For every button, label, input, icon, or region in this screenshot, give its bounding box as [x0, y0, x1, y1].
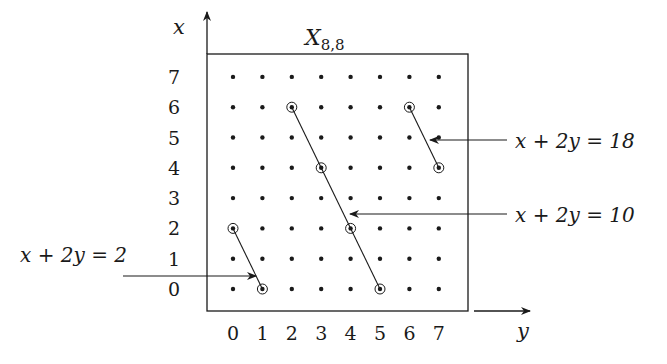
solution-point [287, 102, 297, 112]
lattice-point [260, 196, 264, 200]
lattice-point [290, 287, 294, 291]
row-tick: 6 [168, 96, 180, 118]
row-tick: 4 [168, 157, 180, 179]
lattice-point [348, 196, 352, 200]
lattice-point [437, 226, 441, 230]
lattice-point [378, 226, 382, 230]
row-tick: 0 [168, 278, 180, 300]
lattice-point [231, 75, 235, 79]
lattice-point [231, 257, 235, 261]
lattice-point [348, 287, 352, 291]
equation-line [409, 107, 438, 168]
lattice-point [260, 257, 264, 261]
lattice-point [407, 226, 411, 230]
lattice-point [378, 75, 382, 79]
y-axis-label: y [516, 319, 530, 343]
solution-point [257, 284, 267, 294]
lattice-point [290, 166, 294, 170]
lattice-point [231, 105, 235, 109]
row-tick-labels: 01234567 [168, 66, 180, 300]
lattice-point [319, 196, 323, 200]
col-tick-labels: 01234567 [227, 322, 445, 344]
figure-title: X8,8 [303, 25, 345, 54]
lattice-diagram: X8,8 x y 01234567 01234567 x + 2y = 18 x… [0, 0, 667, 364]
x-axis-label: x [173, 15, 185, 39]
lattice-point [290, 75, 294, 79]
lattice-point [407, 257, 411, 261]
lattice-point [319, 226, 323, 230]
col-tick: 6 [403, 322, 415, 344]
lattice-point [407, 75, 411, 79]
lattice-point [319, 135, 323, 139]
lattice-point [378, 166, 382, 170]
lattice-point [378, 135, 382, 139]
lattice-point [348, 226, 352, 230]
row-tick: 3 [168, 187, 180, 209]
label-line-18: x + 2y = 18 [515, 129, 635, 153]
solution-point [404, 102, 414, 112]
solution-point [375, 284, 385, 294]
row-tick: 2 [168, 217, 180, 239]
lattice-box [207, 54, 468, 311]
col-tick: 7 [433, 322, 445, 344]
row-tick: 7 [168, 66, 180, 88]
lattice-point [437, 75, 441, 79]
lattice-point [260, 226, 264, 230]
lattice-point [348, 105, 352, 109]
lattice-point [319, 75, 323, 79]
col-tick: 0 [227, 322, 239, 344]
col-tick: 4 [345, 322, 357, 344]
lattice-point [231, 166, 235, 170]
label-line-2: x + 2y = 2 [20, 243, 127, 267]
lattice-point [437, 257, 441, 261]
lattice-point [319, 105, 323, 109]
col-tick: 3 [315, 322, 327, 344]
row-tick: 1 [168, 248, 180, 270]
lattice-point [231, 196, 235, 200]
col-tick: 1 [256, 322, 268, 344]
lattice-point [319, 257, 323, 261]
lattice-point [290, 196, 294, 200]
lattice-point [407, 287, 411, 291]
col-tick: 5 [374, 322, 386, 344]
lattice-point [378, 257, 382, 261]
lattice-point [290, 135, 294, 139]
lattice-point [231, 287, 235, 291]
lattice-point [260, 105, 264, 109]
lattice-point [407, 196, 411, 200]
lattice-point [231, 135, 235, 139]
row-tick: 5 [168, 127, 180, 149]
lattice-point [260, 166, 264, 170]
col-tick: 2 [286, 322, 298, 344]
lattice-point [437, 105, 441, 109]
lattice-point [348, 135, 352, 139]
lattice-point [260, 75, 264, 79]
equation-line [292, 107, 380, 289]
lattice-point [348, 75, 352, 79]
lattice-point [407, 135, 411, 139]
lattice-point [290, 226, 294, 230]
lattice-point [437, 135, 441, 139]
solution-point [228, 223, 238, 233]
equation-line [233, 228, 262, 289]
lattice-point [378, 196, 382, 200]
lattice-point [348, 257, 352, 261]
solution-point [434, 163, 444, 173]
lattice-point [290, 257, 294, 261]
lattice-point [348, 166, 352, 170]
lattice-point [437, 287, 441, 291]
lattice-point [437, 196, 441, 200]
label-line-10: x + 2y = 10 [515, 203, 635, 227]
lattice-point [319, 287, 323, 291]
lattice-point [378, 105, 382, 109]
lattice-point [407, 166, 411, 170]
lattice-point [319, 166, 323, 170]
lattice-point [260, 135, 264, 139]
